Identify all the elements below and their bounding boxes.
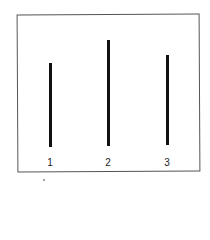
comparison-line-3 xyxy=(166,55,169,145)
line-label-3: 3 xyxy=(161,157,173,168)
comparison-line-1 xyxy=(49,63,52,147)
line-label-1: 1 xyxy=(44,157,56,168)
comparison-line-2 xyxy=(107,40,110,146)
line-label-2: 2 xyxy=(102,157,114,168)
stray-mark xyxy=(43,179,45,181)
